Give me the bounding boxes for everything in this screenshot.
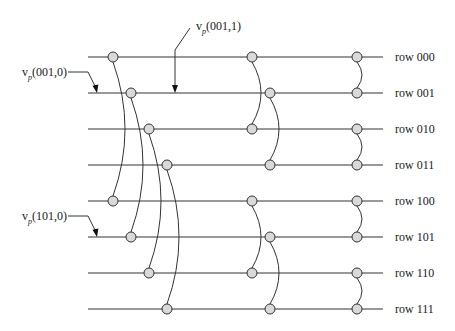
- node-circle: [352, 88, 362, 98]
- node-circle: [352, 124, 362, 134]
- node-circle: [247, 124, 257, 134]
- node-circle: [265, 232, 275, 242]
- svg-text:vp(001,0): vp(001,0): [22, 65, 67, 82]
- svg-text:vp(001,1): vp(001,1): [196, 19, 241, 36]
- row-label: row 110: [395, 266, 434, 280]
- node-circle: [144, 268, 154, 278]
- node-circle: [247, 52, 257, 62]
- row-label: row 001: [395, 86, 435, 100]
- node-circle: [108, 52, 118, 62]
- connection-arc: [357, 206, 362, 232]
- node-circle: [126, 232, 136, 242]
- node-circle: [247, 268, 257, 278]
- node-circle: [126, 88, 136, 98]
- annotation-label: vp(001,1): [172, 19, 241, 93]
- node-circle: [247, 196, 257, 206]
- row-label: row 000: [395, 50, 435, 64]
- row-label: row 101: [395, 230, 435, 244]
- node-circle: [265, 160, 275, 170]
- annotation-label: vp(101,0): [22, 209, 98, 237]
- connection-arc: [357, 62, 362, 88]
- row-label: row 100: [395, 194, 435, 208]
- nodes: [108, 52, 362, 314]
- arrowhead-icon: [92, 229, 98, 237]
- node-circle: [352, 232, 362, 242]
- node-circle: [162, 304, 172, 314]
- row-label: row 111: [395, 302, 434, 316]
- node-circle: [352, 304, 362, 314]
- annotation-label: vp(001,0): [22, 65, 98, 93]
- annotations: vp(001,0)vp(001,1)vp(101,0): [22, 19, 241, 237]
- node-circle: [352, 268, 362, 278]
- arrowhead-icon: [172, 85, 178, 93]
- node-circle: [144, 124, 154, 134]
- row-labels: row 000row 001row 010row 011row 100row 1…: [395, 50, 435, 316]
- node-circle: [108, 196, 118, 206]
- row-label: row 010: [395, 122, 435, 136]
- arrowhead-icon: [92, 85, 98, 93]
- node-circle: [352, 160, 362, 170]
- leader-line: [68, 72, 96, 88]
- node-circle: [265, 88, 275, 98]
- node-circle: [352, 52, 362, 62]
- connection-arc: [357, 134, 362, 160]
- butterfly-network-diagram: row 000row 001row 010row 011row 100row 1…: [0, 0, 455, 331]
- row-label: row 011: [395, 158, 434, 172]
- connection-arc: [357, 278, 362, 304]
- node-circle: [265, 304, 275, 314]
- node-circle: [352, 196, 362, 206]
- leader-line: [68, 216, 96, 232]
- node-circle: [162, 160, 172, 170]
- svg-text:vp(101,0): vp(101,0): [22, 209, 67, 226]
